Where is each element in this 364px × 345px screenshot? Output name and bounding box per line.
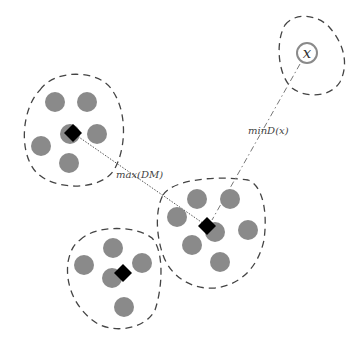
- min-d-label: minD(x): [248, 125, 289, 136]
- data-point: [114, 297, 134, 317]
- data-point: [74, 255, 94, 275]
- cluster-diagram: x max(DM) minD(x): [0, 0, 364, 345]
- data-point: [210, 252, 230, 272]
- data-point: [187, 189, 207, 209]
- max-dm-label: max(DM): [116, 169, 163, 180]
- data-point: [182, 235, 202, 255]
- data-point: [238, 220, 258, 240]
- data-points: [31, 92, 258, 317]
- data-point: [31, 136, 51, 156]
- data-point: [77, 92, 97, 112]
- data-point: [87, 124, 107, 144]
- data-point: [45, 92, 65, 112]
- query-point-label: x: [303, 44, 312, 62]
- data-point: [220, 189, 240, 209]
- data-point: [59, 153, 79, 173]
- data-point: [103, 238, 123, 258]
- data-point: [167, 207, 187, 227]
- data-point: [132, 253, 152, 273]
